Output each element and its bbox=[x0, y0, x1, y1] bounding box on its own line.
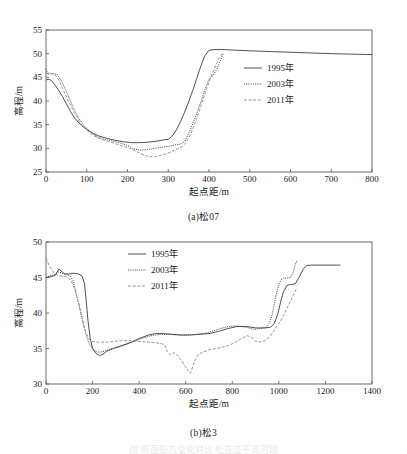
chart-a-ytick-label: 50 bbox=[33, 49, 43, 59]
chart-b-series-2011 bbox=[46, 258, 296, 373]
chart-b-xtick-label: 200 bbox=[86, 386, 100, 396]
chart-a-xtick-label: 300 bbox=[162, 174, 176, 184]
chart-b-ytick-label: 35 bbox=[33, 344, 43, 354]
chart-b-series-1995 bbox=[46, 265, 341, 356]
chart-a-xtick-label: 0 bbox=[44, 174, 49, 184]
chart-a-ytick-label: 30 bbox=[33, 143, 43, 153]
chart-a-legend-label-2011: 2011年 bbox=[267, 94, 294, 105]
chart-b-xtick-label: 400 bbox=[132, 386, 146, 396]
chart-b-legend-label-2011: 2011年 bbox=[151, 280, 178, 291]
chart-b-xaxis-title: 起点距/m bbox=[189, 399, 230, 409]
chart-a-yaxis-title: 高程/m bbox=[13, 85, 24, 116]
chart-a-series-1995 bbox=[46, 49, 372, 142]
chart-b-ytick-label: 40 bbox=[33, 308, 43, 318]
figure-page: 010020030040050060070080025303540455055起… bbox=[0, 0, 407, 454]
chart-b-ytick-label: 30 bbox=[33, 379, 43, 389]
chart-b-ytick-label: 45 bbox=[33, 273, 43, 283]
chart-b-legend-label-1995: 1995年 bbox=[151, 248, 178, 259]
chart-b-xtick-label: 1000 bbox=[270, 386, 289, 396]
figure-a-song07: 010020030040050060070080025303540455055起… bbox=[0, 8, 407, 226]
figure-b-song3: 02004006008001000120014003035404550起点距/m… bbox=[0, 228, 407, 442]
chart-a-series-2003 bbox=[46, 54, 223, 151]
chart-b-plot: 02004006008001000120014003035404550起点距/m… bbox=[0, 228, 407, 424]
chart-a-xtick-label: 100 bbox=[80, 174, 94, 184]
chart-a-xaxis-title: 起点距/m bbox=[189, 187, 230, 197]
chart-a-ytick-label: 25 bbox=[33, 167, 43, 177]
chart-a-xtick-label: 200 bbox=[121, 174, 135, 184]
chart-a-ytick-label: 45 bbox=[33, 72, 43, 82]
bottom-cutoff-text: 图 断面形态变化对比 松花江干流河段 bbox=[0, 444, 407, 454]
chart-b-plot-frame bbox=[46, 242, 372, 384]
chart-b-xtick-label: 600 bbox=[179, 386, 193, 396]
chart-a-xtick-label: 800 bbox=[365, 174, 379, 184]
chart-b-xtick-label: 800 bbox=[226, 386, 240, 396]
chart-a-series-2011 bbox=[46, 54, 222, 157]
chart-b-legend: 1995年2003年2011年 bbox=[128, 248, 178, 291]
chart-a-xtick-label: 500 bbox=[243, 174, 257, 184]
chart-a-plot: 010020030040050060070080025303540455055起… bbox=[0, 8, 407, 208]
figure-a-caption: (a)松07 bbox=[0, 209, 407, 223]
chart-a-ytick-label: 40 bbox=[33, 96, 43, 106]
figure-b-caption: (b)松3 bbox=[0, 425, 407, 439]
chart-a-ytick-label: 35 bbox=[33, 120, 43, 130]
chart-a-xtick-label: 600 bbox=[284, 174, 298, 184]
chart-b-xtick-label: 0 bbox=[44, 386, 49, 396]
chart-b-yaxis-title: 高程/m bbox=[13, 297, 24, 328]
chart-b-legend-label-2003: 2003年 bbox=[151, 264, 178, 275]
chart-a-ytick-label: 55 bbox=[33, 25, 43, 35]
chart-a-xtick-label: 700 bbox=[325, 174, 339, 184]
chart-a-legend-label-1995: 1995年 bbox=[267, 62, 294, 73]
chart-b-ytick-label: 50 bbox=[33, 237, 43, 247]
chart-a-legend: 1995年2003年2011年 bbox=[244, 62, 294, 105]
chart-a-legend-label-2003: 2003年 bbox=[267, 78, 294, 89]
chart-a-plot-frame bbox=[46, 30, 372, 172]
chart-b-xtick-label: 1400 bbox=[363, 386, 382, 396]
bottom-cutoff-label: 图 断面形态变化对比 松花江干流河段 bbox=[0, 444, 407, 454]
chart-b-xtick-label: 1200 bbox=[316, 386, 335, 396]
chart-a-xtick-label: 400 bbox=[202, 174, 216, 184]
